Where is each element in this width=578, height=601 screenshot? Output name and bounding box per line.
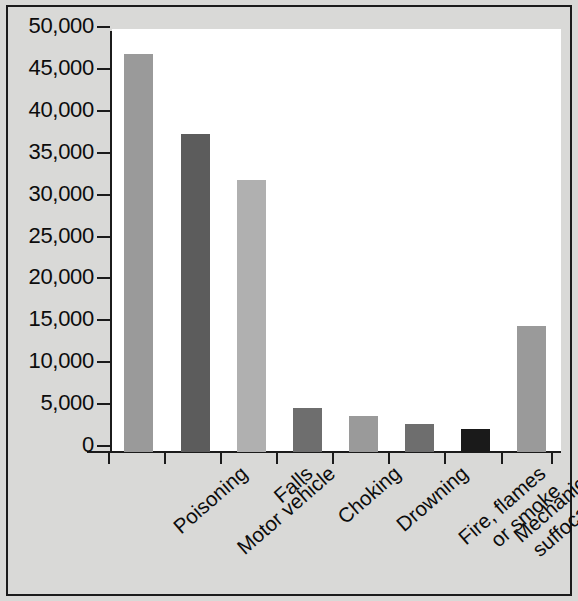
- y-axis-tick: [97, 152, 110, 154]
- y-axis-tick-label: 20,000: [8, 266, 94, 288]
- y-axis-tick-label: 50,000: [8, 15, 94, 37]
- y-axis-tick-label: 10,000: [8, 350, 94, 372]
- bar[interactable]: [349, 416, 378, 452]
- y-axis-tick-label: 25,000: [8, 225, 94, 247]
- y-axis-tick: [97, 361, 110, 363]
- bar[interactable]: [517, 326, 546, 452]
- y-axis-tick: [97, 110, 110, 112]
- x-axis-tick: [444, 453, 446, 464]
- x-axis-label: Poisoning: [169, 462, 252, 538]
- y-axis-tick: [97, 194, 110, 196]
- bar[interactable]: [293, 408, 322, 452]
- chart-frame: 05,00010,00015,00020,00025,00030,00035,0…: [6, 5, 572, 596]
- x-axis-tick: [220, 453, 222, 464]
- y-axis-tick: [97, 277, 110, 279]
- x-axis-tick: [276, 453, 278, 464]
- x-axis-tick: [551, 453, 553, 464]
- x-axis-label-line: Poisoning: [168, 461, 251, 537]
- x-axis-tick: [108, 453, 110, 464]
- y-axis-tick-label: 5,000: [8, 392, 94, 414]
- bar[interactable]: [461, 429, 490, 452]
- x-axis-tick: [332, 453, 334, 464]
- bar[interactable]: [124, 54, 153, 452]
- y-axis-tick-label: 40,000: [8, 99, 94, 121]
- y-axis-tick-label: 0: [8, 434, 94, 456]
- bar-chart-figure: 05,00010,00015,00020,00025,00030,00035,0…: [0, 0, 578, 601]
- y-axis-tick: [97, 445, 110, 447]
- x-axis-tick: [501, 453, 503, 464]
- y-axis-tick: [97, 236, 110, 238]
- y-axis-tick: [97, 68, 110, 70]
- bar[interactable]: [181, 134, 210, 452]
- bar[interactable]: [405, 424, 434, 452]
- y-axis-tick-label: 30,000: [8, 183, 94, 205]
- y-axis-tick-label: 45,000: [8, 57, 94, 79]
- bar[interactable]: [237, 180, 266, 452]
- y-axis-tick-label: 15,000: [8, 308, 94, 330]
- y-axis-tick: [97, 319, 110, 321]
- bars-container: [112, 29, 561, 452]
- y-axis-tick: [97, 403, 110, 405]
- x-axis-tick: [164, 453, 166, 464]
- y-axis-tick: [97, 26, 110, 28]
- y-axis-tick-label: 35,000: [8, 141, 94, 163]
